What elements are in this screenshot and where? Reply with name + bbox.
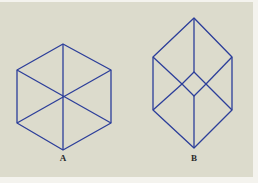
hexagon-outline <box>153 18 232 148</box>
edge-inner-to-lower-right <box>206 84 232 110</box>
figure-a-hexagon <box>17 44 111 150</box>
figure-label-b: B <box>191 154 197 163</box>
inner-diamond <box>182 72 206 96</box>
edge-upper-right-to-inner <box>206 57 232 84</box>
figure-label-a: A <box>60 154 67 163</box>
diagram-figures <box>0 0 258 183</box>
edge-inner-to-lower-left <box>153 84 182 110</box>
edge-upper-left-to-inner <box>153 57 182 84</box>
figure-b-wireframe-cube <box>153 18 232 148</box>
